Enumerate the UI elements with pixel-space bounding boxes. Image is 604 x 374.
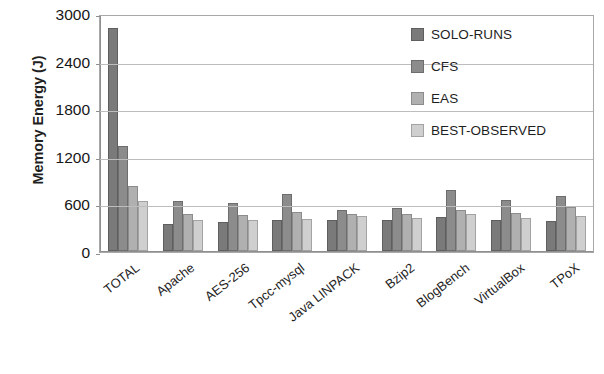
x-axis-tick-label: TOTAL [101,260,142,297]
x-axis-line [100,251,593,252]
bar [282,194,292,251]
bar [118,146,128,251]
gridline [100,159,593,160]
y-axis-tick-label: 600 [28,198,90,214]
legend-label: SOLO-RUNS [431,27,512,42]
bar [337,210,347,251]
legend-label: EAS [431,91,458,106]
bar [163,224,173,251]
bar [446,190,456,251]
bar [566,207,576,251]
bar [556,196,566,251]
bar [382,220,392,251]
legend-label: BEST-OBSERVED [431,123,546,138]
bar [491,220,501,251]
x-axis-tick-label: TPoX [547,260,582,292]
bar [501,200,511,251]
x-axis-tick-label: AES-256 [202,260,252,304]
x-axis-tick-label: BlogBench [413,260,472,311]
bar [436,217,446,251]
y-axis-tick-labels: 06001200180024003000 [28,0,90,374]
bar-group [156,17,211,251]
bar [193,220,203,251]
y-axis-tick-mark [96,111,100,112]
bar [272,220,282,251]
bar [138,201,148,251]
bar [412,218,422,251]
bar [402,214,412,251]
y-axis-tick-label: 0 [28,245,90,261]
bar [576,216,586,251]
bar [173,201,183,251]
legend-item[interactable]: EAS [411,82,596,114]
legend-swatch-icon [411,28,424,41]
legend-swatch-icon [411,124,424,137]
bar [128,186,138,251]
bar [456,210,466,251]
x-axis-tick-label: VirtualBox [471,260,527,308]
y-axis-tick-label: 3000 [28,7,90,23]
memory-energy-bar-chart: Memory Energy (J) 06001200180024003000 T… [0,0,604,374]
y-axis-tick-label: 1200 [28,150,90,166]
x-axis-tick-labels: TOTALApacheAES-256Tpcc-mysqlJava LINPACK… [100,254,594,372]
y-axis-tick-mark [96,159,100,160]
y-axis-tick-label: 1800 [28,102,90,118]
legend-swatch-icon [411,60,424,73]
bar [108,28,118,251]
legend-item[interactable]: BEST-OBSERVED [411,114,596,146]
bar-group [265,17,320,251]
bar [521,218,531,251]
bar [392,208,402,251]
bar [183,214,193,251]
legend-item[interactable]: CFS [411,50,596,82]
chart-legend: SOLO-RUNSCFSEASBEST-OBSERVED [411,18,596,146]
bar [546,221,556,251]
bar [238,215,248,251]
x-axis-tick-label: Bzip2 [382,260,417,292]
bar [466,214,476,251]
bar [292,212,302,251]
legend-label: CFS [431,59,458,74]
bar [511,213,521,251]
gridline [100,206,593,207]
bar [218,222,228,251]
bar-group [320,17,375,251]
legend-item[interactable]: SOLO-RUNS [411,18,596,50]
y-axis-tick-mark [96,16,100,17]
bar [228,203,238,251]
bar [357,216,367,251]
bar [248,220,258,251]
y-axis-tick-mark [96,206,100,207]
bar [347,214,357,251]
legend-swatch-icon [411,92,424,105]
x-axis-tick-label: Apache [154,260,198,299]
bar [327,220,337,251]
bar [302,219,312,251]
bar-group [210,17,265,251]
y-axis-tick-mark [96,64,100,65]
bar-group [101,17,156,251]
y-axis-tick-label: 2400 [28,55,90,71]
